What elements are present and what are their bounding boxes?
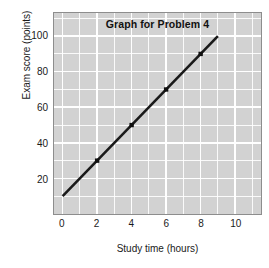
x-tick-label: 4: [116, 218, 146, 229]
chart-figure: Graph for Problem 4 20406080100 0246810 …: [0, 0, 269, 268]
x-tick-label: 8: [186, 218, 216, 229]
x-axis-title: Study time (hours): [53, 243, 262, 254]
x-tick-label: 10: [221, 218, 251, 229]
x-tick-label: 2: [82, 218, 112, 229]
x-tick-label: 0: [47, 218, 77, 229]
y-axis-title: Exam score (points): [20, 0, 34, 135]
x-axis-tick-labels: 0246810: [0, 0, 269, 268]
x-tick-label: 6: [151, 218, 181, 229]
